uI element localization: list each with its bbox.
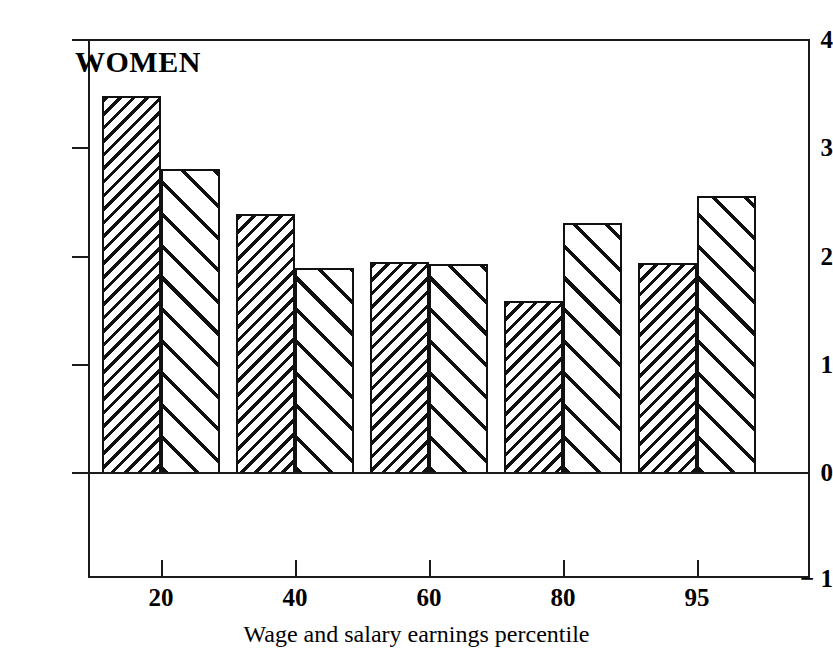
x-tick-0: [161, 560, 163, 578]
bar-group-95-series-b: [697, 196, 756, 474]
chart-figure: 4 3 2 1 0 − 1 20 40 60 80 95 Wage and sa…: [0, 0, 833, 660]
y-tick-0: [72, 39, 90, 41]
x-tick-label-0: 20: [121, 585, 201, 610]
x-tick-3: [563, 560, 565, 578]
bar-group-40-series-a: [236, 214, 295, 474]
bar-group-60-series-b: [429, 264, 488, 474]
x-tick-label-3: 80: [523, 585, 603, 610]
bar-group-80-series-b: [563, 223, 622, 474]
x-tick-label-1: 40: [255, 585, 335, 610]
bar-group-40-series-b: [295, 268, 354, 474]
x-tick-label-4: 95: [657, 585, 737, 610]
bar-group-20-series-b: [161, 169, 220, 474]
bar-group-80-series-a: [504, 301, 563, 474]
y-tick-2: [72, 256, 90, 258]
x-tick-2: [429, 560, 431, 578]
y-tick-label-0: 4: [775, 27, 833, 52]
y-tick-label-5: − 1: [775, 566, 833, 591]
y-tick-1: [72, 147, 90, 149]
x-tick-label-2: 60: [389, 585, 469, 610]
y-tick-label-3: 1: [775, 352, 833, 377]
zero-baseline: [88, 472, 810, 474]
bar-group-60-series-a: [370, 262, 429, 474]
y-tick-label-2: 2: [775, 244, 833, 269]
bar-group-95-series-a: [638, 263, 697, 474]
x-axis-title: Wage and salary earnings percentile: [0, 622, 833, 646]
panel-label: WOMEN: [75, 47, 201, 77]
x-tick-4: [697, 560, 699, 578]
y-tick-label-1: 3: [775, 135, 833, 160]
y-tick-3: [72, 364, 90, 366]
bar-group-20-series-a: [102, 96, 161, 474]
x-tick-1: [295, 560, 297, 578]
